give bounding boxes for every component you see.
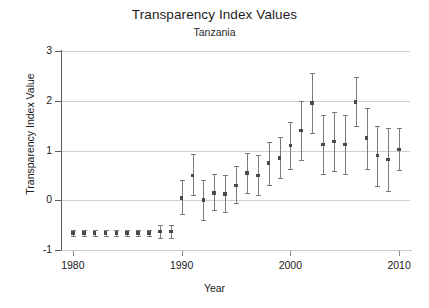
error-bar-cap: [245, 153, 250, 154]
error-bar-cap: [365, 169, 370, 170]
y-tick-mark: [55, 200, 61, 201]
x-tick-label: 2000: [265, 259, 315, 271]
data-point: [245, 171, 249, 175]
error-bar-cap: [201, 220, 206, 221]
data-point: [267, 161, 271, 165]
data-point: [278, 156, 282, 160]
data-point: [180, 196, 184, 200]
error-bar-cap: [93, 236, 98, 237]
data-point: [136, 231, 140, 235]
error-bar-cap: [354, 126, 359, 127]
x-axis-title: Year: [0, 282, 429, 294]
x-tick-mark: [399, 251, 400, 256]
data-point: [332, 140, 336, 144]
data-point: [115, 231, 119, 235]
error-bar-cap: [299, 101, 304, 102]
error-bar-cap: [386, 191, 391, 192]
x-tick-mark: [290, 251, 291, 256]
error-bar-cap: [397, 128, 402, 129]
data-point: [93, 231, 97, 235]
error-bar-cap: [158, 225, 163, 226]
error-bar-cap: [223, 212, 228, 213]
y-axis-title: Transparency Index Value: [24, 34, 36, 234]
data-point: [147, 231, 151, 235]
y-tick-label: -1: [26, 243, 52, 255]
data-point: [104, 231, 108, 235]
gridline-y: [62, 51, 410, 52]
error-bar-cap: [375, 126, 380, 127]
data-point: [158, 230, 162, 234]
error-bar-cap: [267, 185, 272, 186]
data-point: [376, 154, 380, 158]
x-tick-label: 2010: [374, 259, 424, 271]
data-point: [256, 174, 260, 178]
error-bar-cap: [234, 203, 239, 204]
data-point: [299, 129, 303, 133]
data-point: [321, 143, 325, 147]
error-bar-cap: [180, 180, 185, 181]
error-bar-cap: [343, 174, 348, 175]
error-bar-cap: [191, 154, 196, 155]
error-bar-cap: [158, 238, 163, 239]
error-bar-cap: [375, 186, 380, 187]
error-bar-cap: [365, 108, 370, 109]
y-tick-mark: [55, 151, 61, 152]
error-bar-cap: [354, 77, 359, 78]
x-tick-label: 1980: [48, 259, 98, 271]
error-bar-cap: [278, 137, 283, 138]
data-point: [397, 148, 401, 152]
gridline-y: [62, 250, 410, 251]
error-bar-cap: [82, 236, 87, 237]
data-point: [310, 101, 314, 105]
error-bar-cap: [343, 115, 348, 116]
error-bar-cap: [386, 128, 391, 129]
data-point: [191, 174, 195, 178]
error-bar-cap: [245, 193, 250, 194]
x-tick-mark: [182, 251, 183, 256]
error-bar-cap: [267, 142, 272, 143]
error-bar-cap: [223, 175, 228, 176]
data-point: [386, 158, 390, 162]
plot-area: [62, 51, 410, 250]
y-tick-mark: [55, 101, 61, 102]
chart-root: Transparency Index Values Tanzania -1012…: [0, 0, 429, 308]
error-bar-cap: [321, 174, 326, 175]
error-bar-cap: [256, 155, 261, 156]
error-bar-cap: [136, 236, 141, 237]
error-bar-cap: [104, 236, 109, 237]
data-point: [354, 100, 358, 104]
error-bar-cap: [234, 166, 239, 167]
error-bar-cap: [212, 174, 217, 175]
data-point: [71, 231, 75, 235]
error-bar-cap: [299, 160, 304, 161]
error-bar-cap: [169, 238, 174, 239]
chart-subtitle: Tanzania: [0, 26, 429, 38]
error-bar-cap: [332, 112, 337, 113]
error-bar-cap: [212, 210, 217, 211]
error-bar-cap: [180, 214, 185, 215]
error-bar-cap: [397, 170, 402, 171]
gridline-y: [62, 101, 410, 102]
error-bar-cap: [332, 171, 337, 172]
error-bar-cap: [201, 180, 206, 181]
error-bar-cap: [71, 236, 76, 237]
error-bar-cap: [114, 236, 119, 237]
data-point: [212, 191, 216, 195]
error-bar-cap: [310, 133, 315, 134]
y-tick-mark: [55, 250, 61, 251]
data-point: [169, 230, 173, 234]
error-bar-cap: [169, 225, 174, 226]
x-tick-mark: [73, 251, 74, 256]
error-bar-cap: [310, 73, 315, 74]
data-point: [289, 144, 293, 148]
error-bar-cap: [256, 195, 261, 196]
error-bar-cap: [147, 236, 152, 237]
error-bar-cap: [278, 178, 283, 179]
data-point: [202, 198, 206, 202]
data-point: [365, 136, 369, 140]
gridline-y: [62, 151, 410, 152]
data-point: [223, 192, 227, 196]
error-bar-cap: [191, 195, 196, 196]
error-bar-cap: [125, 236, 130, 237]
data-point: [125, 231, 129, 235]
